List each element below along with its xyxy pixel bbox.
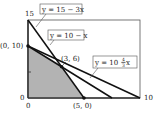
tick-x-10: 10: [144, 94, 153, 102]
label-point-5-0: (5, 0): [73, 102, 92, 110]
label-point-0-10: (0, 10): [0, 42, 24, 50]
eq3-numerator: 4: [122, 57, 125, 62]
eq3-x: x: [126, 59, 130, 67]
tick-y-15: 15: [25, 10, 34, 18]
eq3-denominator: 3: [122, 63, 125, 68]
feasible-region-chart: 15 0 0 10 (0, 10) (3, 6) (5, 0) y = 15 −…: [0, 0, 157, 114]
point-0-10: [26, 44, 30, 48]
label-eq-15-minus-3x: y = 15 − 3x: [41, 6, 84, 14]
point-5-0: [82, 96, 86, 100]
tick-y-0: 0: [20, 94, 24, 102]
tick-x-0: 0: [26, 102, 30, 110]
label-point-3-6: (3, 6): [61, 55, 80, 63]
label-eq-10-minus-x: y = 10 − x: [49, 32, 87, 40]
